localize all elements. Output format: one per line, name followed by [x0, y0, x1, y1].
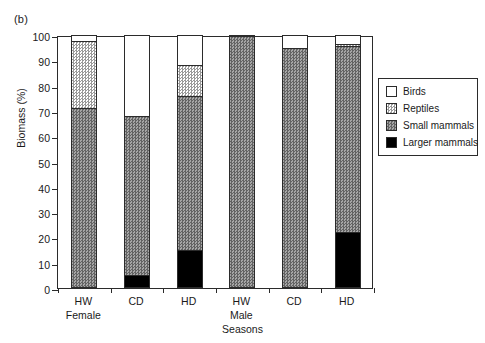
x-axis-tick [321, 288, 322, 293]
legend-item-label: Small mammals [403, 120, 474, 131]
x-axis-tick [269, 288, 270, 293]
white-swatch [386, 86, 397, 97]
y-axis-tick-label: 40 [38, 183, 50, 195]
x-axis-ticks [58, 37, 372, 288]
x-axis-tick-label: CD [286, 295, 301, 307]
y-axis-tick-label: 10 [38, 259, 50, 271]
dark-hatch-swatch [386, 120, 397, 131]
y-axis-tick-label: 60 [38, 132, 50, 144]
x-axis-title: Seasons [0, 323, 485, 335]
legend: BirdsReptilesSmall mammalsLarger mammals [378, 78, 478, 156]
light-hatch-swatch [386, 103, 397, 114]
x-axis-tick [163, 288, 164, 293]
x-axis-tick-label: HW [233, 295, 251, 307]
legend-item-label: Larger mammals [403, 137, 478, 148]
x-axis-tick [111, 288, 112, 293]
black-swatch [386, 137, 397, 148]
x-axis-group-label: Female [66, 309, 101, 321]
legend-item[interactable]: Reptiles [386, 103, 471, 114]
x-axis-tick [216, 288, 217, 293]
y-axis-tick-label: 20 [38, 233, 50, 245]
x-axis-tick-label: HD [181, 295, 196, 307]
panel-label: (b) [14, 13, 28, 25]
x-axis-tick [374, 288, 375, 293]
y-axis-tick-label: 100 [32, 31, 50, 43]
x-axis-tick-label: HD [339, 295, 354, 307]
legend-item[interactable]: Larger mammals [386, 137, 471, 148]
y-axis-tick-label: 30 [38, 208, 50, 220]
y-axis-tick-label: 80 [38, 82, 50, 94]
legend-item[interactable]: Small mammals [386, 120, 471, 131]
legend-item-label: Reptiles [403, 103, 439, 114]
x-axis-tick-label: CD [128, 295, 143, 307]
y-axis-tick-label: 90 [38, 56, 50, 68]
y-axis-title: Biomass (%) [15, 58, 27, 178]
y-axis-tick-label: 50 [38, 158, 50, 170]
x-axis-tick-label: HW [75, 295, 93, 307]
x-axis-group-label: Male [230, 309, 253, 321]
legend-item-label: Birds [403, 86, 426, 97]
y-axis-tick-label: 0 [44, 284, 50, 296]
plot-area: 0102030405060708090100 [57, 36, 373, 289]
y-axis-tick-label: 70 [38, 107, 50, 119]
x-axis-tick [58, 288, 59, 293]
legend-item[interactable]: Birds [386, 86, 471, 97]
